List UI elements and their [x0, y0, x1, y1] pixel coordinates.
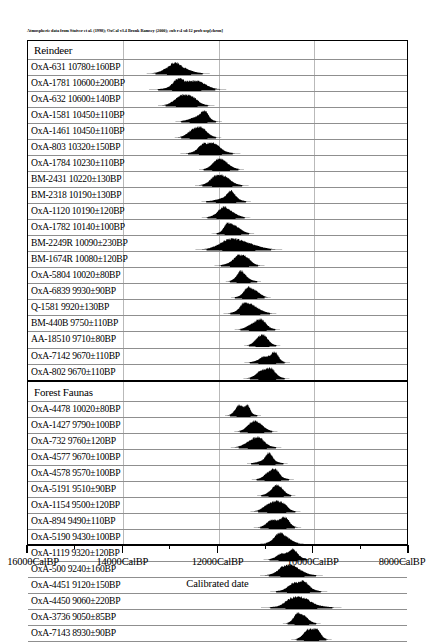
probability-distribution [28, 123, 407, 139]
probability-distribution [28, 593, 407, 609]
distribution-area [245, 468, 302, 480]
sample-row: OxA-4578 9570±100BP [28, 465, 407, 481]
distribution-area [171, 142, 249, 154]
probability-distribution [28, 267, 407, 283]
sample-row: OxA-631 10780±160BP [28, 59, 407, 75]
plot-area: ReindeerOxA-631 10780±160BPOxA-1781 1060… [27, 40, 408, 545]
probability-distribution [28, 348, 407, 364]
probability-distribution [28, 91, 407, 107]
distribution-area [191, 158, 252, 170]
group-header-label: Forest Faunas [34, 386, 93, 398]
distribution-area [247, 596, 356, 608]
distribution-area [277, 612, 327, 624]
axis-tick-label: 10000CalBP [287, 556, 339, 567]
sample-row: OxA-1581 10450±110BP [28, 107, 407, 123]
distribution-area [247, 516, 308, 528]
probability-distribution [28, 364, 407, 380]
distribution-area [187, 174, 257, 186]
probability-distribution [28, 625, 407, 641]
axis-tick-minor [169, 545, 170, 549]
probability-distribution [28, 171, 407, 187]
sample-row: OxA-1782 10140±100BP [28, 219, 407, 235]
probability-distribution [28, 251, 407, 267]
distribution-area [220, 270, 268, 282]
probability-distribution [28, 315, 407, 331]
x-axis-title: Calibrated date [0, 578, 435, 589]
sample-row: OxA-5191 9510±90BP [28, 481, 407, 497]
sample-row: BM-2318 10190±130BP [28, 187, 407, 203]
sample-row: OxA-1781 10600±200BP [28, 75, 407, 91]
distribution-area [237, 366, 298, 378]
sample-row: OxA-1461 10450±110BP [28, 123, 407, 139]
distribution-area [244, 500, 309, 512]
sample-row: OxA-1154 9500±120BP [28, 497, 407, 513]
distribution-area [138, 61, 221, 73]
axis-tick-label: 8000CalBP [379, 556, 426, 567]
axis-tick-label: 12000CalBP [192, 556, 244, 567]
probability-distribution [28, 187, 407, 203]
probability-distribution [28, 433, 407, 449]
sample-row: OxA-4577 9670±100BP [28, 449, 407, 465]
sample-row: OxA-894 9490±110BP [28, 513, 407, 529]
distribution-area [215, 302, 285, 314]
sample-row: OxA-803 10320±150BP [28, 139, 407, 155]
probability-distribution [28, 465, 407, 481]
probability-distribution [28, 155, 407, 171]
distribution-area [150, 94, 224, 106]
sample-row: OxA-732 9760±120BP [28, 433, 407, 449]
probability-distribution [28, 401, 407, 417]
distribution-area [205, 222, 262, 234]
axis-tick-major [407, 545, 408, 553]
axis-tick-major [122, 545, 123, 553]
axis-tick-minor [265, 545, 266, 549]
distribution-area [228, 420, 285, 432]
probability-distribution [28, 497, 407, 513]
sample-row: OxA-7142 9670±110BP [28, 348, 407, 364]
probability-distribution [28, 235, 407, 251]
sample-row: OxA-4450 9060±220BP [28, 593, 407, 609]
probability-distribution [28, 107, 407, 123]
sample-row: OxA-5804 10020±80BP [28, 267, 407, 283]
sample-row: BM-440B 9750±110BP [28, 315, 407, 331]
credit-line: Atmospheric data from Stuiver et al. (19… [27, 28, 427, 33]
distribution-area [224, 286, 276, 298]
axis-tick-label: 14000CalBP [96, 556, 148, 567]
probability-distribution [28, 609, 407, 625]
group-header-row: Forest Faunas [28, 383, 407, 401]
section-divider [28, 380, 407, 382]
axis-tick-major [217, 545, 218, 553]
x-axis [27, 545, 408, 555]
distribution-area [225, 436, 290, 448]
sample-row: BM-2431 10220±130BP [28, 171, 407, 187]
sample-row: Q-1581 9920±130BP [28, 299, 407, 315]
distribution-area [137, 78, 237, 90]
probability-distribution [28, 75, 407, 91]
axis-tick-label: 16000CalBP [7, 556, 59, 567]
distribution-area [239, 334, 287, 346]
distribution-area [193, 206, 258, 218]
probability-distribution [28, 529, 407, 545]
probability-distribution [28, 449, 407, 465]
probability-distribution [28, 219, 407, 235]
sample-row: OxA-632 10600±140BP [28, 91, 407, 107]
sample-row: BM-1674R 10080±120BP [28, 251, 407, 267]
sample-row: OxA-7143 8930±90BP [28, 625, 407, 641]
distribution-area [191, 190, 261, 202]
distribution-area [207, 254, 272, 266]
probability-distribution [28, 283, 407, 299]
sample-row: BM-2249R 10090±230BP [28, 235, 407, 251]
probability-distribution [28, 203, 407, 219]
sample-row: OxA-3736 9050±85BP [28, 609, 407, 625]
distribution-area [168, 110, 229, 122]
probability-distribution [28, 59, 407, 75]
sample-row: OxA-1120 10190±120BP [28, 203, 407, 219]
probability-distribution [28, 299, 407, 315]
probability-distribution [28, 331, 407, 347]
distribution-area [168, 126, 229, 138]
distribution-area [227, 318, 288, 330]
distribution-area [254, 532, 311, 544]
probability-distribution [28, 139, 407, 155]
distribution-area [239, 452, 296, 464]
group-header-row: Reindeer [28, 41, 407, 59]
axis-tick-major [312, 545, 313, 553]
